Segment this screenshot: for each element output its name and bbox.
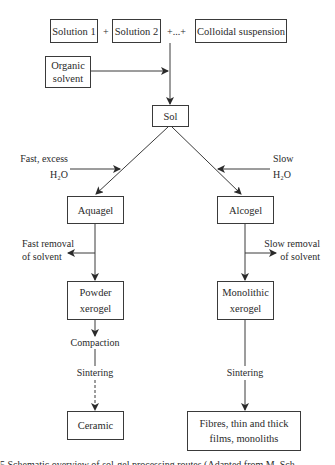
monolithic-xerogel-box: Monolithic xerogel — [217, 281, 274, 320]
solution-1-label: Solution 1 — [52, 25, 95, 38]
fast-removal-line1: Fast removal — [22, 238, 74, 250]
sol-box: Sol — [152, 105, 189, 127]
colloidal-label: Colloidal suspension — [197, 25, 285, 38]
fast-water-line1: Fast, excess — [10, 153, 68, 165]
slow-removal-line2: of solvent — [255, 251, 320, 263]
powder-xerogel-line1: Powder — [79, 286, 111, 299]
fast-removal-line2: of solvent — [22, 251, 74, 263]
colloidal-suspension-box: Colloidal suspension — [195, 19, 287, 43]
figure-caption: 5 Schematic overview of sol-gel processi… — [0, 458, 335, 465]
slow-water-line2: H₂O — [273, 169, 294, 181]
solution-2-label: Solution 2 — [115, 25, 158, 38]
compaction-label: Compaction — [60, 337, 130, 349]
right-sintering-label: Sintering — [210, 367, 280, 379]
fibres-line2: films, monoliths — [210, 432, 279, 445]
sol-label: Sol — [163, 110, 177, 123]
fibres-line1: Fibres, thin and thick — [199, 417, 288, 430]
aquagel-label: Aquagel — [78, 204, 114, 217]
slow-removal-label: Slow removal of solvent — [255, 238, 320, 263]
organic-solvent-label: Organic solvent — [51, 59, 85, 85]
organic-solvent-box: Organic solvent — [45, 56, 91, 88]
fast-water-line2: H₂O — [10, 169, 68, 181]
slow-removal-line1: Slow removal — [255, 238, 320, 250]
slow-water-line1: Slow — [273, 153, 294, 165]
alcogel-label: Alcogel — [229, 204, 262, 217]
aquagel-box: Aquagel — [67, 196, 124, 224]
powder-xerogel-line2: xerogel — [80, 302, 112, 315]
solution-2-box: Solution 2 — [112, 19, 161, 43]
plus-ellipsis: +...+ — [167, 26, 186, 38]
plus-sign: + — [103, 26, 109, 38]
left-sintering-label: Sintering — [60, 367, 130, 379]
solution-1-box: Solution 1 — [50, 19, 98, 43]
ceramic-box: Ceramic — [67, 411, 124, 440]
monolithic-xerogel-line2: xerogel — [230, 302, 262, 315]
slow-water-label: Slow H₂O — [273, 153, 294, 181]
monolithic-xerogel-line1: Monolithic — [222, 286, 269, 299]
alcogel-box: Alcogel — [217, 196, 274, 224]
fast-water-label: Fast, excess H₂O — [10, 153, 68, 181]
fast-removal-label: Fast removal of solvent — [22, 238, 74, 263]
ceramic-label: Ceramic — [78, 419, 114, 432]
fibres-films-monoliths-box: Fibres, thin and thick films, monoliths — [187, 411, 301, 451]
powder-xerogel-box: Powder xerogel — [67, 281, 124, 320]
